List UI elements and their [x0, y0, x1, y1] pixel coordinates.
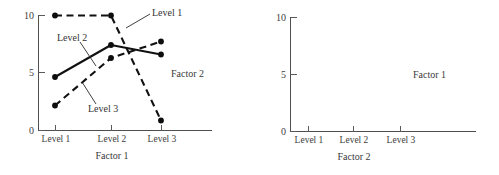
left-ytick-label-5: 5 [16, 68, 34, 78]
right-xtick-label-level-2: Level 2 [333, 136, 375, 146]
leader-level-1 [126, 14, 150, 28]
series-level-3-point-1 [52, 103, 58, 109]
right-x-axis-title: Factor 2 [312, 152, 396, 162]
series-level-1-point-3 [158, 118, 164, 124]
left-ytick-label-10: 10 [16, 11, 34, 21]
series-level-1-point-2 [108, 13, 114, 19]
right-ytick-label-5: 5 [268, 70, 286, 80]
left-ytick-label-0: 0 [16, 126, 34, 136]
series-label-level-3: Level 3 [88, 104, 118, 114]
left-xtick-label-level-2: Level 2 [91, 135, 133, 145]
left-xtick-label-level-3: Level 3 [141, 135, 183, 145]
left-xtick-label-level-1: Level 1 [35, 135, 77, 145]
left-panel-factor-tag: Factor 2 [171, 69, 204, 79]
right-interaction-plot: 10 5 0 Level 1 Level 2 Level 3 Factor 2 … [250, 0, 499, 175]
left-interaction-plot: 10 5 0 Level 1 Level 2 Level 3 Factor 1 … [0, 0, 250, 175]
series-level-1-point-1 [52, 13, 58, 19]
series-level-2-point-2 [108, 42, 114, 48]
series-label-level-1: Level 1 [152, 8, 182, 18]
series-level-2-point-1 [52, 74, 58, 80]
series-level-3-point-3 [158, 39, 164, 45]
right-xtick-label-level-3: Level 3 [380, 136, 422, 146]
series-level-2-point-3 [158, 52, 164, 58]
right-xtick-label-level-1: Level 1 [288, 136, 330, 146]
right-ytick-label-10: 10 [268, 13, 286, 23]
right-plot-canvas [250, 0, 499, 175]
right-panel-factor-tag: Factor 1 [413, 70, 446, 80]
series-label-level-2: Level 2 [57, 33, 87, 43]
right-ytick-label-0: 0 [268, 127, 286, 137]
leader-level-3 [82, 82, 96, 104]
left-plot-canvas [0, 0, 250, 175]
right-axes [291, 17, 477, 132]
left-x-axis-title: Factor 1 [70, 151, 154, 161]
interaction-plot-figure: 10 5 0 Level 1 Level 2 Level 3 Factor 1 … [0, 0, 499, 175]
series-level-3-point-2 [108, 55, 114, 61]
